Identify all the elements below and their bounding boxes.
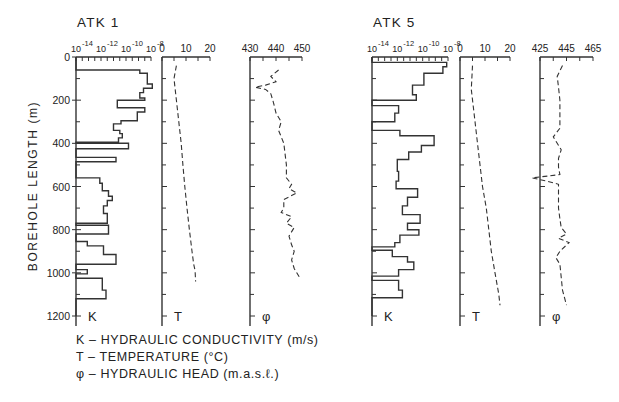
- x-tick-label: 10: [71, 44, 81, 54]
- panel-k: 10-1410-1210-1010-8K: [367, 39, 461, 326]
- x-tick-exponent: -14: [378, 39, 389, 48]
- plots: ATK 102004006008001000120010-1410-1210-1…: [47, 15, 602, 326]
- x-tick-label: 425: [532, 43, 549, 54]
- y-tick-label: 800: [52, 224, 70, 236]
- x-tick-label: 10: [479, 43, 491, 54]
- borehole-atk-1: ATK 102004006008001000120010-1410-1210-1…: [47, 15, 311, 326]
- y-tick-label: 0: [64, 51, 70, 63]
- x-tick-exponent: -14: [82, 39, 93, 48]
- borehole-title: ATK 1: [77, 15, 120, 30]
- x-tick-exponent: -12: [403, 39, 414, 48]
- y-tick-label: 400: [52, 137, 70, 149]
- x-tick-label: 445: [558, 43, 575, 54]
- panel-k: 10-1410-1210-1010-8K: [71, 39, 164, 326]
- x-tick-label: 20: [504, 43, 516, 54]
- y-tick-label: 1200: [47, 310, 71, 322]
- x-tick-label: 10: [96, 44, 106, 54]
- head-line: [255, 70, 299, 277]
- y-tick-label: 600: [52, 181, 70, 193]
- borehole-title: ATK 5: [373, 15, 416, 30]
- legend-item-t: T – TEMPERATURE (°C): [76, 349, 319, 366]
- x-tick-label: 10: [443, 44, 453, 54]
- x-tick-exponent: -10: [132, 39, 143, 48]
- x-tick-label: 10: [367, 44, 377, 54]
- x-tick-label: 450: [294, 43, 311, 54]
- x-tick-label: 10: [121, 44, 131, 54]
- x-tick-label: 430: [242, 43, 259, 54]
- x-tick-exponent: -10: [429, 39, 440, 48]
- panel-label: T: [472, 309, 480, 324]
- temperature-line: [471, 66, 500, 306]
- panel-phi: 425445465φ: [532, 43, 602, 326]
- legend: K – HYDRAULIC CONDUCTIVITY (m/s) T – TEM…: [76, 332, 319, 383]
- panel-label: K: [384, 309, 393, 324]
- y-tick-label: 200: [52, 94, 70, 106]
- panel-label: φ: [262, 309, 270, 324]
- panel-t: 01020T: [159, 43, 216, 326]
- y-tick-label: 1000: [47, 267, 71, 279]
- legend-item-phi: φ – HYDRAULIC HEAD (m.a.s.ℓ.): [76, 366, 319, 383]
- temperature-line: [174, 66, 196, 282]
- x-tick-exponent: -12: [107, 39, 118, 48]
- y-axis-label: BOREHOLE LENGTH (m): [26, 101, 40, 271]
- x-tick-label: 440: [268, 43, 285, 54]
- panel-phi: 430440450φ: [242, 43, 311, 326]
- x-tick-label: 10: [180, 43, 192, 54]
- panel-label: T: [174, 309, 182, 324]
- x-tick-label: 10: [418, 44, 428, 54]
- x-tick-label: 10: [146, 44, 156, 54]
- legend-item-k: K – HYDRAULIC CONDUCTIVITY (m/s): [76, 332, 319, 349]
- y-axis-title: BOREHOLE LENGTH (m): [26, 101, 40, 271]
- x-tick-label: 20: [204, 43, 216, 54]
- x-tick-label: 0: [457, 43, 463, 54]
- k-step-line: [372, 57, 447, 316]
- x-tick-label: 465: [585, 43, 602, 54]
- panel-label: K: [88, 309, 97, 324]
- x-tick-label: 0: [159, 43, 165, 54]
- k-step-line: [76, 57, 152, 316]
- panel-t: 01020T: [457, 43, 516, 326]
- head-line: [532, 66, 569, 306]
- x-tick-label: 10: [392, 44, 402, 54]
- panel-label: φ: [552, 309, 560, 324]
- borehole-atk-5: ATK 510-1410-1210-1010-8K01020T425445465…: [367, 15, 602, 326]
